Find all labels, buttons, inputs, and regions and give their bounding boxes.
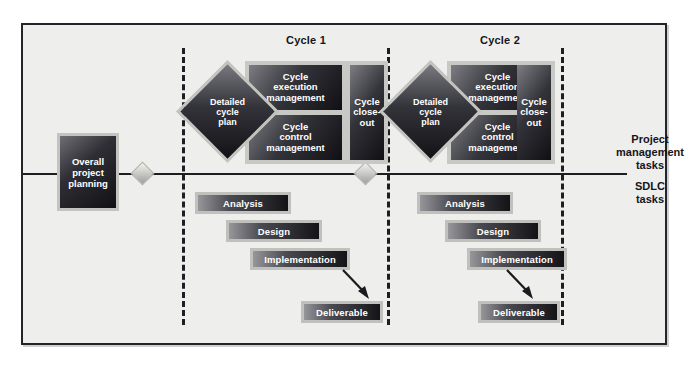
cycle-1-detailed-cycle-plan-diamond[interactable]: Detailed cycle plan	[191, 75, 264, 148]
diamond-label: Detailed cycle plan	[394, 75, 467, 148]
detailed-plan-line-2: cycle	[210, 107, 245, 117]
bar-label: Design	[477, 226, 509, 237]
bar-label: Implementation	[481, 254, 553, 265]
cycle-2-bar-design[interactable]: Design	[445, 220, 541, 242]
cycle-2-closeout-box[interactable]: Cycle close- out	[517, 65, 551, 160]
bar-label: Deliverable	[316, 307, 368, 318]
diagram-canvas: Cycle 1 Cycle 2 Project management tasks…	[23, 25, 665, 343]
lane-caption-project-management: Project management tasks	[611, 133, 688, 172]
cycle-2-bar-analysis[interactable]: Analysis	[417, 192, 513, 214]
bar-label: Deliverable	[493, 307, 545, 318]
lane-caption-line-3: tasks	[611, 159, 688, 172]
detailed-plan-line-3: plan	[413, 117, 448, 127]
planning-label-line-2: project	[68, 167, 108, 178]
planning-label-line-3: planning	[68, 178, 108, 189]
lane-caption-line-1: Project	[611, 133, 688, 146]
detailed-plan-line-1: Detailed	[210, 97, 245, 107]
detailed-plan-line-1: Detailed	[413, 97, 448, 107]
cycle-2-bar-deliverable[interactable]: Deliverable	[478, 301, 560, 323]
planning-label-line-1: Overall	[68, 156, 108, 167]
overall-project-planning-box[interactable]: Overall project planning	[57, 133, 119, 211]
cycle-1-bar-analysis[interactable]: Analysis	[195, 192, 291, 214]
cycle-2-implementation-to-deliverable-arrow	[505, 268, 541, 302]
diagram-frame: Cycle 1 Cycle 2 Project management tasks…	[21, 23, 667, 345]
lane-caption-line-2: management	[611, 146, 688, 159]
bar-label: Design	[258, 226, 290, 237]
phase-label-cycle-1: Cycle 1	[261, 34, 351, 46]
cycle-2-detailed-cycle-plan-diamond[interactable]: Detailed cycle plan	[394, 75, 467, 148]
lane-caption-line-2: tasks	[611, 193, 688, 206]
cycle-1-implementation-to-deliverable-arrow	[341, 268, 377, 302]
execution-label-line-3: management	[266, 93, 325, 104]
diamond-label: Detailed cycle plan	[191, 75, 264, 148]
phase-separator-3	[561, 48, 564, 325]
closeout-label-line-3: out	[353, 118, 380, 129]
bar-label: Implementation	[264, 254, 336, 265]
lane-caption-line-1: SDLC	[611, 180, 688, 193]
diagram-page: Cycle 1 Cycle 2 Project management tasks…	[0, 0, 688, 367]
bar-label: Analysis	[223, 198, 263, 209]
milestone-diamond-1	[130, 161, 154, 185]
phase-separator-1	[182, 48, 185, 325]
detailed-plan-line-2: cycle	[413, 107, 448, 117]
cycle-1-bar-implementation[interactable]: Implementation	[250, 248, 350, 270]
detailed-plan-line-3: plan	[210, 117, 245, 127]
bar-label: Analysis	[445, 198, 485, 209]
lane-caption-sdlc: SDLC tasks	[611, 180, 688, 206]
cycle-1-bar-design[interactable]: Design	[226, 220, 322, 242]
control-label-line-3: management	[266, 143, 325, 154]
cycle-1-bar-deliverable[interactable]: Deliverable	[301, 301, 383, 323]
phase-label-cycle-2: Cycle 2	[455, 34, 545, 46]
milestone-diamond-2	[353, 161, 377, 185]
closeout-label-line-3: out	[520, 118, 547, 129]
cycle-2-bar-implementation[interactable]: Implementation	[467, 248, 567, 270]
